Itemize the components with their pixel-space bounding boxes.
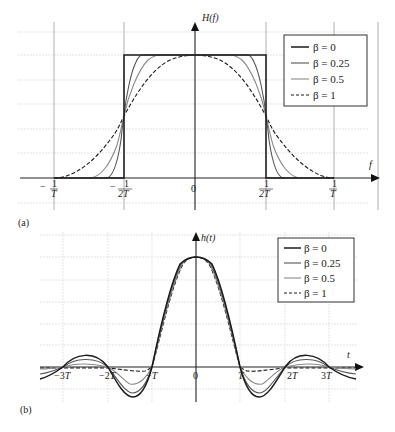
- panel-a-x-arrow-icon: [371, 174, 380, 182]
- panel-a: H(f) f − 1 T − 1 2T 0 1 2T 1 T: [18, 12, 380, 229]
- svg-text:−3T: −3T: [54, 370, 72, 381]
- panel-b-ylabel: h(t): [201, 232, 216, 244]
- svg-text:β = 0.25: β = 0.25: [304, 257, 341, 269]
- panel-a-y-arrow-icon: [191, 22, 199, 31]
- panel-a-tick-neg-half: − 1 2T: [110, 178, 132, 199]
- svg-text:β = 1: β = 1: [313, 89, 336, 101]
- svg-text:β = 0.25: β = 0.25: [313, 57, 350, 69]
- panel-b-x-arrow-icon: [355, 363, 364, 371]
- panel-b: h(t) t −3T −2T −T 0 T 2T 3T β = 0 β = 0.…: [20, 232, 364, 416]
- svg-text:β = 0.5: β = 0.5: [313, 73, 345, 85]
- panel-a-label: (a): [18, 217, 29, 229]
- panel-a-legend: β = 0 β = 0.25 β = 0.5 β = 1: [284, 35, 367, 106]
- panel-a-tick-inv-T: 1 T: [329, 178, 337, 199]
- svg-text:β = 0: β = 0: [313, 41, 336, 53]
- figure: H(f) f − 1 T − 1 2T 0 1 2T 1 T: [0, 0, 395, 432]
- panel-b-legend: β = 0 β = 0.25 β = 0.5 β = 1: [278, 238, 354, 302]
- svg-text:β = 0: β = 0: [304, 242, 327, 254]
- panel-a-tick-zero: 0: [191, 183, 196, 194]
- svg-text:T: T: [330, 188, 337, 199]
- svg-text:0: 0: [193, 370, 198, 381]
- svg-text:T: T: [51, 188, 58, 199]
- svg-text:−T: −T: [146, 370, 159, 381]
- svg-text:β = 1: β = 1: [304, 287, 327, 299]
- panel-b-tick-labels: −3T −2T −T 0 T 2T 3T: [54, 370, 333, 381]
- panel-b-y-arrow-icon: [192, 232, 200, 241]
- panel-a-tick-neg-inv-T: − 1 T: [40, 178, 58, 199]
- svg-text:β = 0.5: β = 0.5: [304, 272, 336, 284]
- panel-b-label: (b): [20, 404, 32, 416]
- svg-text:−: −: [40, 181, 46, 192]
- svg-text:2T: 2T: [287, 370, 299, 381]
- svg-text:2T: 2T: [259, 188, 271, 199]
- svg-text:3T: 3T: [321, 370, 333, 381]
- panel-b-xlabel: t: [347, 349, 350, 360]
- panel-a-ylabel: H(f): [201, 12, 219, 24]
- svg-text:2T: 2T: [118, 188, 130, 199]
- svg-text:−: −: [110, 181, 116, 192]
- panel-a-xlabel: f: [369, 159, 373, 170]
- svg-text:−2T: −2T: [99, 370, 117, 381]
- panel-a-tick-half: 1 2T: [259, 178, 273, 199]
